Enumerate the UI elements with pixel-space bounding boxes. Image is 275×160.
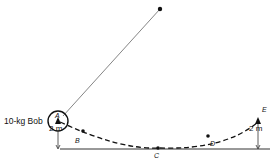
swing-path: [60, 122, 258, 148]
point-b-dot: [81, 129, 85, 133]
point-a-label: A: [54, 112, 60, 119]
height-left-label: 2 m: [49, 124, 63, 133]
pendulum-string: [63, 9, 160, 116]
point-d-dot: [206, 134, 210, 138]
bob-label: 10-kg Bob: [4, 116, 43, 126]
point-c-label: C: [154, 152, 160, 159]
point-e-label: E: [262, 106, 267, 113]
point-b-label: B: [75, 137, 80, 144]
point-c-dot: [156, 146, 160, 150]
point-d-label: D: [210, 140, 215, 147]
pivot-point: [158, 7, 162, 11]
point-e-marker: [255, 117, 261, 124]
height-right-label: 2 m: [249, 124, 263, 133]
pendulum-diagram: 10-kg Bob A B C D E 2 m 2 m: [0, 0, 275, 160]
